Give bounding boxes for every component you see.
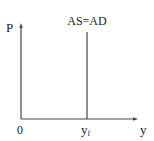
origin-label: 0 xyxy=(17,123,23,137)
y-axis-label: P xyxy=(6,20,13,35)
yf-tick-label: yf xyxy=(81,122,91,138)
as-ad-diagram: P AS=AD 0 yf y xyxy=(0,0,154,141)
y-axis-arrow-icon xyxy=(19,23,22,28)
x-axis-label: y xyxy=(140,122,147,137)
curve-label: AS=AD xyxy=(67,14,107,28)
x-axis-arrow-icon xyxy=(133,117,138,120)
